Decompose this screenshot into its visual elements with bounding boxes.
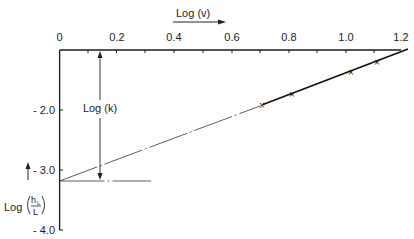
fitted-line-bold xyxy=(263,49,408,105)
data-point-4: × xyxy=(374,57,380,68)
svg-text:0.8: 0.8 xyxy=(281,31,296,43)
svg-text:- 4.0: - 4.0 xyxy=(33,224,55,236)
svg-text:Log: Log xyxy=(4,201,22,213)
logk-label: Log (k) xyxy=(83,102,117,114)
svg-text:0.4: 0.4 xyxy=(166,31,181,43)
data-point-3: × xyxy=(348,67,354,78)
y-axis-arrow-icon xyxy=(26,162,31,180)
svg-text:0.6: 0.6 xyxy=(224,31,239,43)
svg-text:1.0: 1.0 xyxy=(338,31,353,43)
x-axis-arrow-icon xyxy=(173,20,226,25)
svg-text:L: L xyxy=(37,200,41,206)
data-point-2: × xyxy=(289,89,295,100)
svg-text:- 3.0: - 3.0 xyxy=(33,164,55,176)
svg-text:1.2: 1.2 xyxy=(393,31,408,43)
extrapolated-line xyxy=(60,106,260,181)
x-tick-labels: 0 0.2 0.4 0.6 0.8 1.0 1.2 xyxy=(57,31,409,43)
y-axis-title: Log h L L xyxy=(4,195,45,217)
x-axis-title: Log (v) xyxy=(176,7,210,19)
svg-text:0: 0 xyxy=(57,31,63,43)
logk-double-arrow-icon xyxy=(98,51,103,180)
svg-text:L: L xyxy=(33,207,38,217)
svg-text:- 2.0: - 2.0 xyxy=(33,104,55,116)
svg-text:0.2: 0.2 xyxy=(109,31,124,43)
svg-text:h: h xyxy=(31,195,36,205)
data-point-1: × xyxy=(259,100,265,111)
log-log-chart: Log (v) 0 0.2 0.4 0.6 0.8 1.0 1.2 - 2.0 xyxy=(0,0,414,239)
